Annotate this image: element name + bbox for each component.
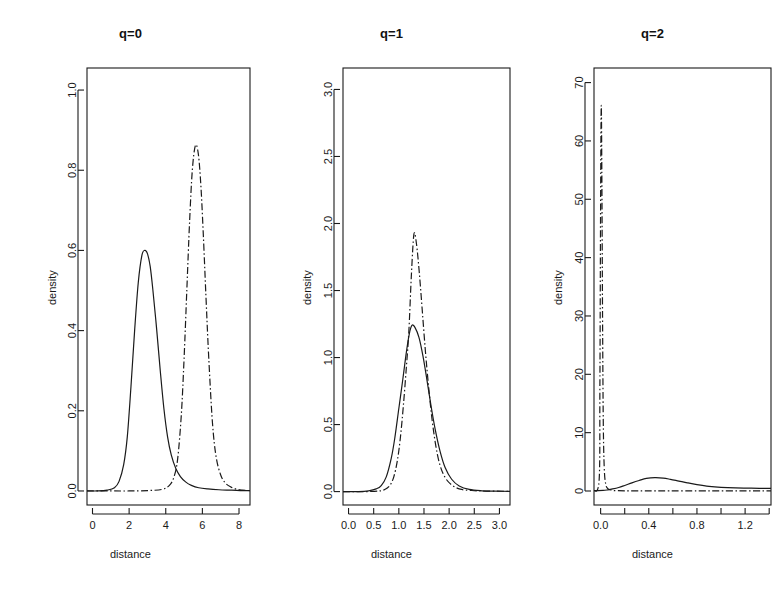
panel-q2: q=2 density distance 0102030405060700.00… bbox=[522, 0, 783, 597]
svg-text:2.5: 2.5 bbox=[467, 519, 482, 531]
svg-text:1.2: 1.2 bbox=[737, 519, 752, 531]
svg-text:1.0: 1.0 bbox=[322, 350, 334, 365]
density-figure: q=0 density distance 0.00.20.40.60.81.00… bbox=[0, 0, 783, 597]
svg-text:30: 30 bbox=[573, 310, 585, 322]
svg-text:0.0: 0.0 bbox=[593, 519, 608, 531]
svg-text:8: 8 bbox=[236, 519, 242, 531]
svg-text:4: 4 bbox=[163, 519, 169, 531]
svg-text:2: 2 bbox=[126, 519, 132, 531]
svg-text:0.5: 0.5 bbox=[366, 519, 381, 531]
svg-text:70: 70 bbox=[573, 76, 585, 88]
panel-q1: q=1 density distance 0.00.51.01.52.02.53… bbox=[261, 0, 522, 597]
svg-text:0: 0 bbox=[573, 488, 585, 494]
svg-text:6: 6 bbox=[199, 519, 205, 531]
svg-text:1.5: 1.5 bbox=[416, 519, 431, 531]
svg-text:10: 10 bbox=[573, 427, 585, 439]
svg-text:3.0: 3.0 bbox=[492, 519, 507, 531]
svg-text:50: 50 bbox=[573, 193, 585, 205]
svg-text:2.0: 2.0 bbox=[441, 519, 456, 531]
svg-text:1.5: 1.5 bbox=[322, 283, 334, 298]
svg-text:1.0: 1.0 bbox=[391, 519, 406, 531]
svg-text:0.4: 0.4 bbox=[641, 519, 656, 531]
svg-text:2.5: 2.5 bbox=[322, 149, 334, 164]
plot-area-q0: 0.00.20.40.60.81.002468 bbox=[0, 0, 261, 597]
plot-area-q1: 0.00.51.01.52.02.53.00.00.51.01.52.02.53… bbox=[261, 0, 522, 597]
svg-text:0.0: 0.0 bbox=[322, 484, 334, 499]
svg-text:0.0: 0.0 bbox=[341, 519, 356, 531]
svg-text:0.2: 0.2 bbox=[66, 403, 78, 418]
svg-text:1.0: 1.0 bbox=[66, 82, 78, 97]
svg-text:3.0: 3.0 bbox=[322, 82, 334, 97]
plot-area-q2: 0102030405060700.00.40.81.2 bbox=[522, 0, 783, 597]
svg-text:0: 0 bbox=[89, 519, 95, 531]
svg-text:0.0: 0.0 bbox=[66, 483, 78, 498]
svg-text:60: 60 bbox=[573, 135, 585, 147]
svg-text:0.4: 0.4 bbox=[66, 323, 78, 338]
svg-text:20: 20 bbox=[573, 368, 585, 380]
svg-text:0.5: 0.5 bbox=[322, 417, 334, 432]
svg-text:0.8: 0.8 bbox=[689, 519, 704, 531]
svg-text:2.0: 2.0 bbox=[322, 216, 334, 231]
panel-q0: q=0 density distance 0.00.20.40.60.81.00… bbox=[0, 0, 261, 597]
svg-text:0.6: 0.6 bbox=[66, 243, 78, 258]
svg-text:40: 40 bbox=[573, 251, 585, 263]
svg-text:0.8: 0.8 bbox=[66, 163, 78, 178]
